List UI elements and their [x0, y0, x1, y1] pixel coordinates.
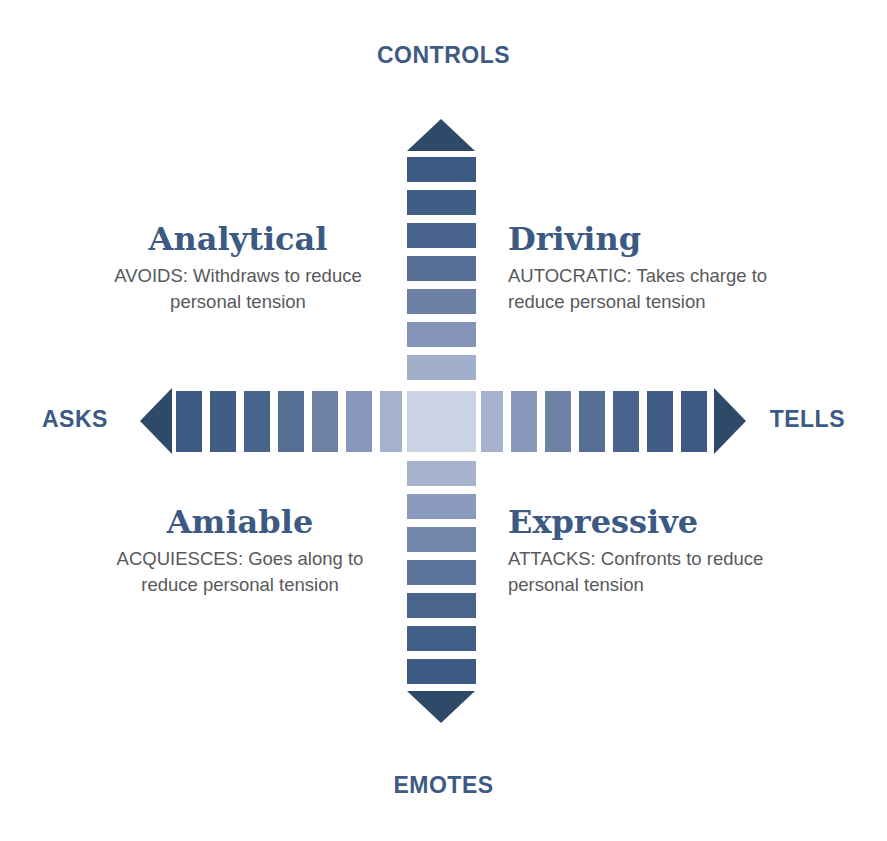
- vertical-segment-top-6: [407, 355, 476, 380]
- quadrant-title-analytical: Analytical: [88, 222, 388, 257]
- horizontal-segment-right-0: [481, 391, 503, 452]
- horizontal-segment-left-1: [210, 391, 236, 452]
- horizontal-segment-right-5: [647, 391, 673, 452]
- vertical-segment-bottom-4: [407, 593, 476, 618]
- quadrant-title-expressive: Expressive: [508, 505, 808, 540]
- horizontal-segment-right-1: [511, 391, 537, 452]
- horizontal-segment-left-2: [244, 391, 270, 452]
- quadrant-description-expressive: ATTACKS: Confronts to reduce personal te…: [508, 546, 808, 599]
- vertical-segment-top-5: [407, 322, 476, 347]
- axis-label-tells: TELLS: [770, 406, 845, 433]
- social-styles-diagram: CONTROLS EMOTES ASKS TELLS Analytical AV…: [0, 0, 887, 841]
- horizontal-segment-right-6: [681, 391, 707, 452]
- vertical-segment-top-2: [407, 223, 476, 248]
- quadrant-driving: Driving AUTOCRATIC: Takes charge to redu…: [508, 222, 808, 316]
- center-square: [407, 391, 476, 452]
- quadrant-analytical: Analytical AVOIDS: Withdraws to reduce p…: [88, 222, 388, 316]
- quadrant-description-driving: AUTOCRATIC: Takes charge to reduce perso…: [508, 263, 808, 316]
- horizontal-segment-right-2: [545, 391, 571, 452]
- vertical-segment-top-0: [407, 157, 476, 182]
- quadrant-expressive: Expressive ATTACKS: Confronts to reduce …: [508, 505, 808, 599]
- quadrant-title-amiable: Amiable: [90, 505, 390, 540]
- horizontal-segment-left-5: [346, 391, 372, 452]
- horizontal-segment-right-3: [579, 391, 605, 452]
- quadrant-amiable: Amiable ACQUIESCES: Goes along to reduce…: [90, 505, 390, 599]
- vertical-segment-bottom-6: [407, 659, 476, 684]
- vertical-segment-bottom-3: [407, 560, 476, 585]
- horizontal-segment-left-6: [380, 391, 402, 452]
- vertical-segment-top-3: [407, 256, 476, 281]
- vertical-segment-top-4: [407, 289, 476, 314]
- horizontal-segment-left-3: [278, 391, 304, 452]
- vertical-segment-top-1: [407, 190, 476, 215]
- arrow-down-icon: [407, 691, 475, 723]
- horizontal-segment-right-4: [613, 391, 639, 452]
- vertical-segment-bottom-1: [407, 494, 476, 519]
- axis-label-emotes: EMOTES: [0, 772, 887, 799]
- horizontal-segment-left-4: [312, 391, 338, 452]
- axis-label-asks: ASKS: [42, 406, 108, 433]
- quadrant-title-driving: Driving: [508, 222, 808, 257]
- arrow-up-icon: [407, 119, 475, 151]
- horizontal-segment-left-0: [176, 391, 202, 452]
- axis-label-controls: CONTROLS: [0, 42, 887, 69]
- vertical-segment-bottom-5: [407, 626, 476, 651]
- quadrant-description-analytical: AVOIDS: Withdraws to reduce personal ten…: [88, 263, 388, 316]
- vertical-segment-bottom-2: [407, 527, 476, 552]
- vertical-segment-bottom-0: [407, 461, 476, 486]
- arrow-right-icon: [714, 388, 746, 454]
- quadrant-description-amiable: ACQUIESCES: Goes along to reduce persona…: [90, 546, 390, 599]
- arrow-left-icon: [140, 388, 172, 454]
